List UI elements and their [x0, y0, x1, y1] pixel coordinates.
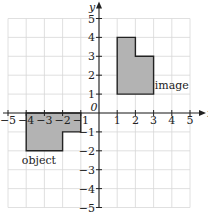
labels: −5−4−3−2−11234554321−1−2−3−4−5xy0objecti…: [0, 1, 208, 215]
x-tick-label: 2: [132, 114, 139, 127]
y-tick-label: 1: [88, 88, 95, 101]
y-tick-label: −4: [79, 183, 95, 196]
y-axis-label: y: [88, 1, 96, 14]
origin-label: 0: [91, 101, 98, 114]
axes: [3, 2, 206, 208]
y-axis-arrow-icon: [96, 2, 102, 9]
x-tick-label: 5: [187, 114, 194, 127]
x-tick-label: −5: [0, 114, 16, 127]
x-tick-label: 1: [114, 114, 121, 127]
object-label: object: [22, 154, 57, 167]
x-tick-label: 3: [150, 114, 157, 127]
y-tick-label: −5: [79, 202, 95, 215]
coordinate-grid: −5−4−3−2−11234554321−1−2−3−4−5xy0objecti…: [0, 0, 208, 216]
y-tick-label: 2: [88, 69, 95, 82]
y-tick-label: −1: [79, 126, 95, 139]
y-tick-label: −3: [79, 164, 95, 177]
y-tick-label: −2: [79, 145, 95, 158]
x-tick-label: −2: [54, 114, 70, 127]
x-tick-label: −3: [36, 114, 52, 127]
image-shape: [117, 37, 153, 94]
x-axis-label: x: [207, 107, 208, 120]
x-tick-label: 4: [168, 114, 175, 127]
y-tick-label: 4: [88, 31, 95, 44]
y-tick-label: 5: [88, 13, 95, 26]
x-tick-label: −4: [18, 114, 34, 127]
image-label: image: [155, 79, 189, 92]
x-axis-arrow-icon: [199, 110, 206, 116]
y-tick-label: 3: [88, 50, 95, 63]
